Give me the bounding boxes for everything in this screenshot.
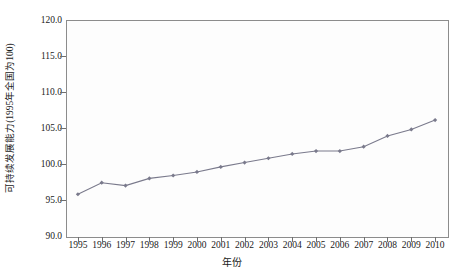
y-tick-mark [60, 92, 66, 93]
x-tick-mark [197, 237, 198, 242]
x-tick-mark [364, 237, 365, 242]
x-tick-mark [221, 237, 222, 242]
x-tick-mark [316, 237, 317, 242]
y-axis-tick-labels: 90.095.0100.0105.0110.0115.0120.0 [24, 0, 62, 273]
x-tick-mark [387, 237, 388, 242]
x-tick-mark [78, 237, 79, 242]
y-axis-title: 可持续发展能力(1995年全国为100) [2, 0, 18, 236]
y-tick-label: 95.0 [24, 195, 62, 205]
x-tick-mark [340, 237, 341, 242]
y-tick-mark [60, 164, 66, 165]
x-tick-mark [149, 237, 150, 242]
y-tick-mark [60, 200, 66, 201]
y-tick-mark [60, 56, 66, 57]
y-tick-label: 120.0 [24, 15, 62, 25]
x-tick-mark [245, 237, 246, 242]
x-axis-title: 年份 [0, 254, 464, 269]
y-tick-label: 105.0 [24, 123, 62, 133]
y-tick-mark [60, 128, 66, 129]
x-tick-mark [126, 237, 127, 242]
x-tick-mark [292, 237, 293, 242]
plot-area [66, 20, 449, 238]
x-tick-mark [268, 237, 269, 242]
chart-figure: 可持续发展能力(1995年全国为100) 90.095.0100.0105.01… [0, 0, 464, 273]
x-tick-mark [411, 237, 412, 242]
y-tick-label: 115.0 [24, 51, 62, 61]
x-tick-mark [173, 237, 174, 242]
x-tick-mark [435, 237, 436, 242]
x-tick-mark [102, 237, 103, 242]
x-axis-tick-labels: 1995199619971998199920002001200220032004… [0, 240, 464, 254]
y-tick-label: 110.0 [24, 87, 62, 97]
y-tick-label: 100.0 [24, 159, 62, 169]
